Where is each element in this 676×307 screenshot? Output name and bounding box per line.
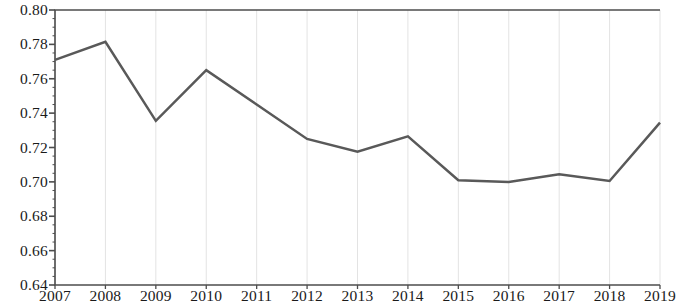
x-axis-label: 2018 [594, 288, 626, 304]
y-axis-label: 0.76 [0, 71, 48, 87]
x-axis-label: 2013 [342, 288, 374, 304]
x-axis-label: 2008 [90, 288, 122, 304]
vertical-gridlines [55, 10, 660, 285]
y-axis-label: 0.68 [0, 208, 48, 224]
x-axis-tick-labels: 2007200820092010201120122013201420152016… [0, 288, 669, 307]
y-axis-major-ticks [49, 10, 55, 285]
y-axis-label: 0.74 [0, 105, 48, 121]
x-axis-label: 2007 [39, 288, 71, 304]
y-axis-tick-labels: 0.800.780.760.740.720.700.680.660.64 [0, 0, 48, 307]
x-axis-label: 2011 [241, 288, 272, 304]
x-axis-label: 2014 [392, 288, 424, 304]
y-axis-label: 0.66 [0, 243, 48, 259]
y-axis-label: 0.80 [0, 2, 48, 18]
x-axis-label: 2015 [442, 288, 474, 304]
y-axis-label: 0.72 [0, 140, 48, 156]
x-axis-label: 2010 [190, 288, 222, 304]
x-axis-label: 2019 [644, 288, 676, 304]
y-axis-label: 0.78 [0, 36, 48, 52]
x-axis-label: 2017 [543, 288, 575, 304]
y-axis-label: 0.70 [0, 174, 48, 190]
x-axis-label: 2009 [140, 288, 172, 304]
x-axis-label: 2012 [291, 288, 323, 304]
x-axis-label: 2016 [493, 288, 525, 304]
